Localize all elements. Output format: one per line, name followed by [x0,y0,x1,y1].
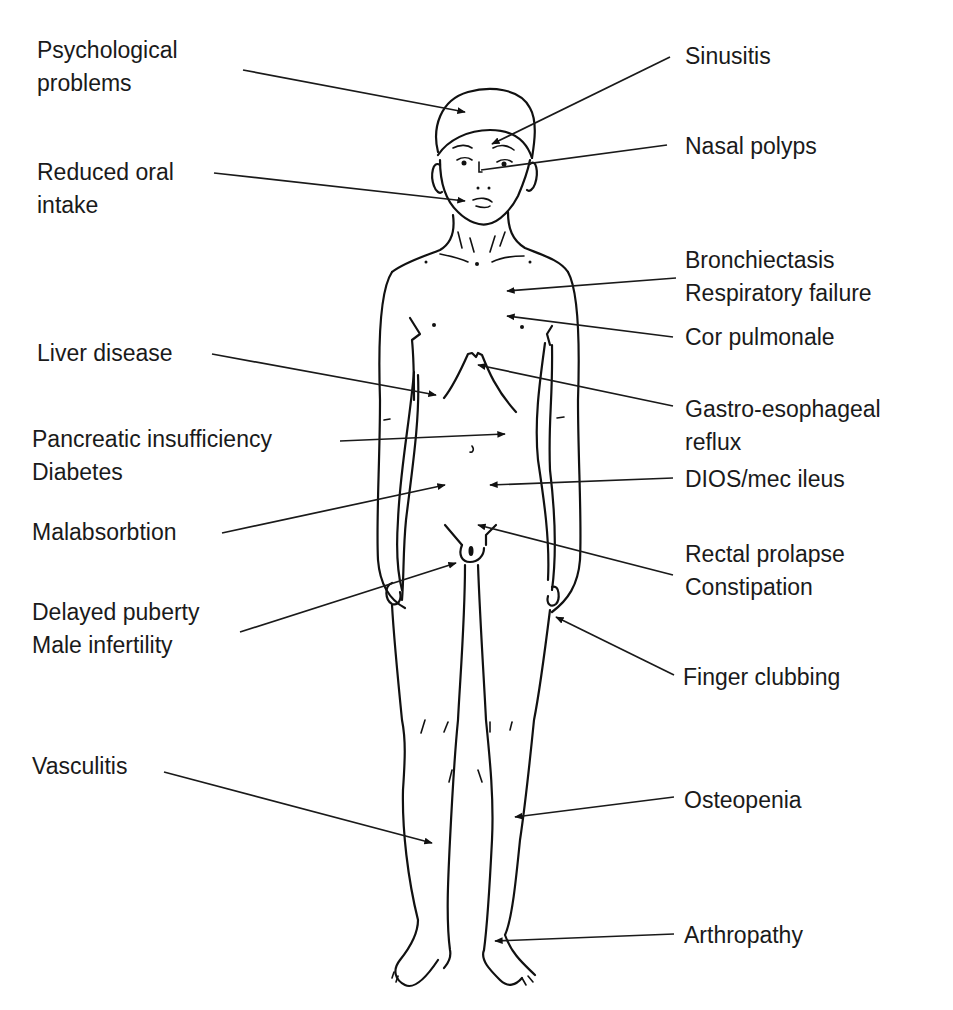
label-cor-pulmonale: Cor pulmonale [685,321,835,354]
neck-shoulders [392,212,568,272]
label-sinusitis: Sinusitis [685,40,771,73]
label-osteopenia: Osteopenia [684,784,802,817]
label-reduced-oral-intake: Reduced oral intake [37,156,174,222]
label-gastro-esophageal-reflux: Gastro-esophageal reflux [685,393,881,459]
label-nasal-polyps: Nasal polyps [685,130,817,163]
diagram-canvas: Psychological problems Reduced oral inta… [0,0,953,1010]
leader-lines [164,57,676,941]
label-rectal-prolapse-constipation: Rectal prolapse Constipation [685,538,845,604]
label-vasculitis: Vasculitis [32,750,127,783]
torso-arms [377,272,580,612]
label-bronchiectasis-respiratory-failure: Bronchiectasis Respiratory failure [685,244,872,310]
label-dios-mec-ileus: DIOS/mec ileus [685,463,845,496]
label-delayed-puberty-male-infertility: Delayed puberty Male infertility [32,596,200,662]
legs [392,565,550,986]
label-arthropathy: Arthropathy [684,919,803,952]
label-liver-disease: Liver disease [37,337,173,370]
label-finger-clubbing: Finger clubbing [683,661,840,694]
label-pancreatic-insufficiency-diabetes: Pancreatic insufficiency Diabetes [32,423,272,489]
label-malabsorbtion: Malabsorbtion [32,516,176,549]
label-psychological-problems: Psychological problems [37,34,178,100]
